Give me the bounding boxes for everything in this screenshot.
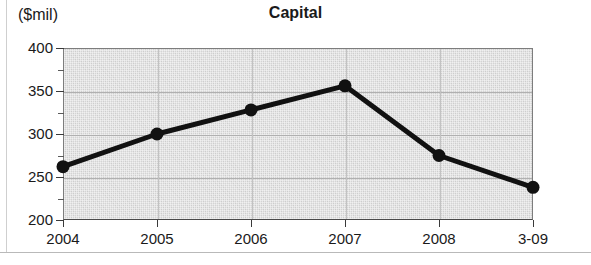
y-tick-label: 300 (1, 126, 53, 141)
gridline-x (346, 49, 347, 219)
y-tick-minor (58, 199, 64, 200)
x-tick-label: 2007 (300, 231, 390, 246)
x-tick-label: 3-09 (488, 231, 578, 246)
x-tick-label: 2004 (18, 231, 108, 246)
y-tick-minor (58, 70, 64, 71)
y-tick-minor (58, 113, 64, 114)
y-tick-major (56, 48, 64, 49)
gridline-y (64, 178, 532, 179)
y-tick-major (56, 177, 64, 178)
x-tick (157, 220, 158, 227)
x-tick (345, 220, 346, 227)
x-tick-label: 2008 (394, 231, 484, 246)
x-tick-label: 2006 (206, 231, 296, 246)
plot-area (63, 48, 533, 220)
y-tick-label: 250 (1, 169, 53, 184)
x-tick (533, 220, 534, 227)
capital-line-chart: ($mil) Capital 400350300250200 200420052… (0, 0, 591, 265)
x-tick (439, 220, 440, 227)
gridline-x (252, 49, 253, 219)
x-tick (63, 220, 64, 227)
y-tick-label: 400 (1, 40, 53, 55)
x-tick-label: 2005 (112, 231, 202, 246)
x-tick (251, 220, 252, 227)
scan-border-bottom (0, 252, 591, 253)
y-tick-label: 200 (1, 212, 53, 227)
gridline-y (64, 92, 532, 93)
gridline-x (440, 49, 441, 219)
gridline-x (158, 49, 159, 219)
y-tick-minor (58, 156, 64, 157)
y-tick-label: 350 (1, 83, 53, 98)
chart-title: Capital (0, 4, 591, 22)
y-tick-major (56, 134, 64, 135)
y-tick-major (56, 91, 64, 92)
gridline-y (64, 135, 532, 136)
plot-paper-texture (64, 49, 532, 219)
